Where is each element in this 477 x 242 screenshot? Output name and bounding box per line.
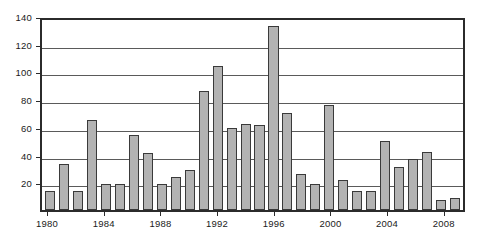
bar-slot <box>448 20 462 210</box>
bar <box>268 26 278 210</box>
bar <box>324 105 334 210</box>
bar-slot <box>183 20 197 210</box>
bar <box>296 174 306 210</box>
x-axis-tick-label: 1984 <box>93 218 115 229</box>
bar <box>115 184 125 210</box>
plot-area <box>40 18 465 212</box>
bar <box>101 184 111 210</box>
y-axis-tick-mark <box>36 129 40 130</box>
x-axis-tick-mark <box>274 212 275 216</box>
y-axis-tick-label: 40 <box>21 152 32 162</box>
y-axis-tick-label: 20 <box>21 179 32 189</box>
bar <box>87 120 97 210</box>
y-axis-tick-mark <box>36 18 40 19</box>
bar <box>352 191 362 210</box>
bar <box>436 200 446 210</box>
bar-slot <box>420 20 434 210</box>
x-axis-tick-label: 1988 <box>149 218 171 229</box>
x-axis-tick-mark <box>387 212 388 216</box>
bar-slot <box>155 20 169 210</box>
bar-slot <box>141 20 155 210</box>
bar <box>380 141 390 210</box>
bar-slot <box>197 20 211 210</box>
bar <box>185 170 195 210</box>
bar-slot <box>71 20 85 210</box>
bar-slot <box>43 20 57 210</box>
bar-series <box>42 20 463 210</box>
x-axis-tick-label: 2004 <box>376 218 398 229</box>
x-axis-tick-mark <box>104 212 105 216</box>
x-axis-tick-mark <box>47 212 48 216</box>
bar-slot <box>364 20 378 210</box>
bar <box>450 198 460 210</box>
y-axis-tick-mark <box>36 73 40 74</box>
y-axis-tick-mark <box>36 184 40 185</box>
y-axis-tick-label: 120 <box>16 41 32 51</box>
bar-slot <box>308 20 322 210</box>
x-axis-tick-label: 1992 <box>206 218 228 229</box>
bar <box>73 191 83 210</box>
bar <box>338 180 348 210</box>
y-axis-tick-label: 100 <box>16 68 32 78</box>
x-axis-tick-label: 1996 <box>263 218 285 229</box>
bar-slot <box>406 20 420 210</box>
bar-slot <box>336 20 350 210</box>
bar-slot <box>350 20 364 210</box>
bar-slot <box>57 20 71 210</box>
bar-slot <box>127 20 141 210</box>
bar <box>143 153 153 210</box>
bar <box>129 135 139 210</box>
bar <box>282 113 292 210</box>
x-axis-tick-mark <box>330 212 331 216</box>
bar-slot <box>85 20 99 210</box>
bar <box>45 191 55 210</box>
bar-slot <box>294 20 308 210</box>
bar <box>310 184 320 210</box>
bar <box>241 124 251 210</box>
x-axis-tick-label: 2000 <box>319 218 341 229</box>
y-axis-tick-mark <box>36 46 40 47</box>
bar <box>254 125 264 210</box>
bar-chart: 20406080100120140 1980198419881992199620… <box>0 0 477 242</box>
bar-slot <box>253 20 267 210</box>
x-axis-tick-mark <box>160 212 161 216</box>
bar <box>394 167 404 210</box>
bar <box>422 152 432 210</box>
x-axis-tick-label: 1980 <box>36 218 58 229</box>
bar-slot <box>169 20 183 210</box>
x-axis-tick-mark <box>444 212 445 216</box>
x-axis-tick-label: 2008 <box>433 218 455 229</box>
bar-slot <box>392 20 406 210</box>
bar <box>59 164 69 210</box>
bar-slot <box>225 20 239 210</box>
bar-slot <box>267 20 281 210</box>
bar <box>157 184 167 210</box>
bar <box>199 91 209 210</box>
bar <box>213 66 223 210</box>
bar <box>408 159 418 210</box>
bar-slot <box>113 20 127 210</box>
bar-slot <box>99 20 113 210</box>
x-axis-tick-mark <box>217 212 218 216</box>
x-axis-labels: 19801984198819921996200020042008 <box>40 218 465 236</box>
y-axis-labels: 20406080100120140 <box>0 0 38 242</box>
bar <box>227 128 237 210</box>
bar-slot <box>434 20 448 210</box>
y-axis-tick-label: 80 <box>21 96 32 106</box>
bar-slot <box>280 20 294 210</box>
y-axis-tick-label: 60 <box>21 124 32 134</box>
bar-slot <box>239 20 253 210</box>
bar <box>366 191 376 210</box>
bar-slot <box>322 20 336 210</box>
bar-slot <box>378 20 392 210</box>
bar-slot <box>211 20 225 210</box>
bar <box>171 177 181 210</box>
y-axis-tick-mark <box>36 101 40 102</box>
y-axis-tick-label: 140 <box>16 13 32 23</box>
y-axis-tick-mark <box>36 157 40 158</box>
